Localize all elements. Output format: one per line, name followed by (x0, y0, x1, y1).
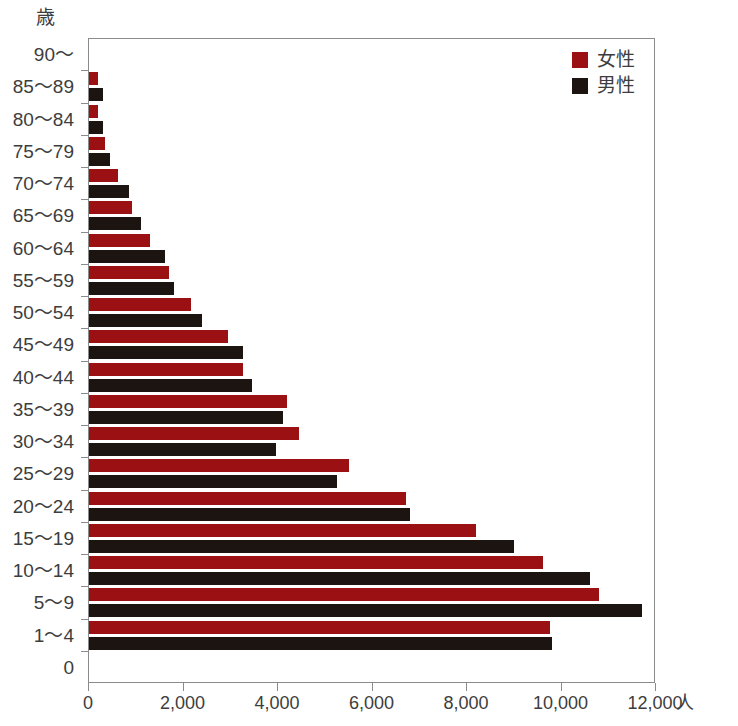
x-axis-tick-label: 4,000 (254, 694, 299, 712)
y-axis-tick (81, 651, 89, 652)
bar-male (89, 637, 552, 650)
x-axis-tick-label: 10,000 (533, 694, 588, 712)
x-axis-tick-label: 6,000 (349, 694, 394, 712)
y-axis-tick-label: 10～14 (13, 561, 74, 580)
x-axis-tick (183, 683, 184, 691)
x-axis-tick-label: 12,000 (627, 694, 682, 712)
x-axis-tick-label: 8,000 (443, 694, 488, 712)
y-axis-tick-label: 80～84 (13, 110, 74, 129)
y-axis-tick-label: 50～54 (13, 303, 74, 322)
legend-label-female: 女性 (597, 50, 635, 69)
x-axis-tick (466, 683, 467, 691)
bars-layer (89, 39, 655, 682)
bar-female (89, 492, 406, 505)
legend-item-female: 女性 (572, 50, 635, 69)
y-axis-tick (81, 457, 89, 458)
bar-female (89, 556, 543, 569)
y-axis-tick-label: 40～44 (13, 368, 74, 387)
bar-male (89, 508, 410, 521)
bar-male (89, 314, 202, 327)
bar-male (89, 153, 110, 166)
y-axis-category-labels: 90～85～8980～8475～7970～7465～6960～6455～5950… (0, 38, 84, 683)
legend-swatch-male-icon (572, 78, 588, 94)
bar-male (89, 475, 337, 488)
bar-female (89, 427, 299, 440)
bar-male (89, 185, 129, 198)
y-axis-tick (81, 554, 89, 555)
y-axis-tick-label: 0 (63, 658, 74, 677)
y-axis-unit-label: 歳 (36, 8, 55, 27)
bar-female (89, 459, 349, 472)
x-axis-tick (88, 683, 89, 691)
y-axis-tick (81, 619, 89, 620)
y-axis-tick-label: 60～64 (13, 239, 74, 258)
bar-female (89, 105, 98, 118)
bar-male (89, 411, 283, 424)
y-axis-tick (81, 393, 89, 394)
x-axis-tick-label: 0 (83, 694, 93, 712)
bar-female (89, 137, 105, 150)
y-axis-tick-label: 1～4 (34, 626, 74, 645)
bar-male (89, 282, 174, 295)
y-axis-tick-label: 30～34 (13, 432, 74, 451)
bar-female (89, 298, 191, 311)
bar-female (89, 169, 118, 182)
bar-male (89, 540, 514, 553)
bar-male (89, 379, 252, 392)
y-axis-tick (81, 296, 89, 297)
legend-swatch-female-icon (572, 52, 588, 68)
bar-male (89, 217, 141, 230)
x-axis-tick (561, 683, 562, 691)
y-axis-tick-label: 35～39 (13, 400, 74, 419)
x-axis-tick (277, 683, 278, 691)
y-axis-tick (81, 586, 89, 587)
y-axis-tick-label: 90～ (34, 45, 74, 64)
x-axis-tick (655, 683, 656, 691)
bar-female (89, 72, 98, 85)
bar-female (89, 234, 150, 247)
y-axis-tick (81, 232, 89, 233)
bar-male (89, 346, 243, 359)
bar-female (89, 266, 169, 279)
bar-female (89, 363, 243, 376)
y-axis-tick (81, 70, 89, 71)
legend-item-male: 男性 (572, 76, 635, 95)
population-pyramid-chart: 歳 90～85～8980～8475～7970～7465～6960～6455～59… (0, 0, 738, 726)
bar-male (89, 443, 276, 456)
bar-male (89, 121, 103, 134)
y-axis-tick (81, 103, 89, 104)
bar-male (89, 572, 590, 585)
y-axis-tick-label: 5～9 (34, 593, 74, 612)
legend-label-male: 男性 (597, 76, 635, 95)
x-axis-unit-label: 人 (676, 694, 694, 712)
y-axis-tick (81, 199, 89, 200)
y-axis-tick-label: 25～29 (13, 464, 74, 483)
y-axis-tick-label: 70～74 (13, 174, 74, 193)
bar-female (89, 524, 476, 537)
y-axis-tick-label: 75～79 (13, 142, 74, 161)
y-axis-tick (81, 328, 89, 329)
y-axis-tick-label: 85～89 (13, 77, 74, 96)
y-axis-tick (81, 264, 89, 265)
bar-female (89, 330, 228, 343)
y-axis-tick (81, 361, 89, 362)
bar-female (89, 588, 599, 601)
bar-male (89, 88, 103, 101)
y-axis-tick (81, 167, 89, 168)
chart-legend: 女性 男性 (572, 50, 635, 102)
y-axis-tick (81, 490, 89, 491)
bar-male (89, 250, 165, 263)
y-axis-tick (81, 425, 89, 426)
y-axis-tick (81, 135, 89, 136)
bar-female (89, 621, 550, 634)
bar-male (89, 604, 642, 617)
y-axis-tick-label: 45～49 (13, 335, 74, 354)
y-axis-tick-label: 15～19 (13, 529, 74, 548)
y-axis-tick-label: 20～24 (13, 497, 74, 516)
x-axis-tick-label: 2,000 (160, 694, 205, 712)
x-axis-tick (372, 683, 373, 691)
bar-female (89, 395, 287, 408)
bar-female (89, 201, 132, 214)
y-axis-tick-label: 55～59 (13, 271, 74, 290)
y-axis-tick-label: 65～69 (13, 206, 74, 225)
